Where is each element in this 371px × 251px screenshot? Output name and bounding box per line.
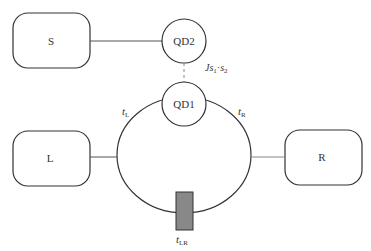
- coupling-label: Js1·s2: [205, 63, 228, 75]
- hopping-t-r-label: tR: [238, 106, 246, 119]
- barrier-t-lr: [176, 192, 193, 230]
- node-r-label: R: [318, 152, 325, 163]
- node-s-label: S: [48, 36, 54, 47]
- node-l-label: L: [47, 153, 54, 164]
- hopping-t-l-label: tL: [122, 106, 129, 119]
- node-qd2-label: QD2: [173, 36, 194, 47]
- hopping-t-lr-label: tLR: [176, 234, 188, 247]
- node-qd1-label: QD1: [173, 99, 194, 110]
